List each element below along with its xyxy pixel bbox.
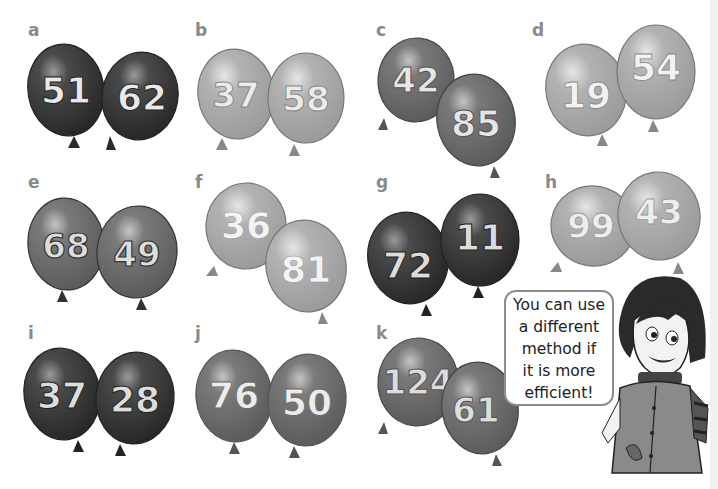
balloon-a-2: 62: [100, 50, 180, 160]
balloon-number: 61: [452, 390, 499, 430]
balloon-number: 37: [37, 375, 87, 416]
balloon-number: 11: [455, 217, 505, 258]
balloon-number: 68: [42, 226, 89, 266]
balloon-number: 76: [209, 375, 259, 416]
balloon-number: 72: [383, 245, 433, 286]
page-edge: [710, 0, 718, 489]
balloon-number: 85: [451, 103, 501, 144]
speech-line-4: it is more: [506, 360, 612, 382]
balloon-j-1: 76: [194, 348, 274, 464]
balloon-number: 42: [392, 60, 439, 100]
balloon-a-1: 51: [26, 42, 106, 158]
balloon-number: 62: [117, 77, 167, 118]
balloon-c-2: 85: [434, 70, 518, 184]
balloon-number: 49: [113, 234, 160, 274]
balloon-number: 58: [282, 79, 329, 119]
problem-label-e: e: [28, 172, 40, 192]
problem-label-j: j: [195, 323, 201, 343]
speech-line-2: a different: [506, 316, 612, 338]
problem-label-a: a: [28, 20, 39, 40]
balloon-b-2: 58: [266, 50, 346, 164]
balloon-g-1: 72: [366, 208, 450, 324]
speech-bubble: You can use a different method if it is …: [504, 290, 614, 406]
balloon-f-2: 81: [264, 216, 348, 332]
balloon-number: 37: [212, 75, 259, 115]
balloon-number: 50: [282, 382, 332, 423]
balloon-i-1: 37: [22, 346, 102, 462]
speech-line-5: efficient!: [506, 382, 612, 404]
balloon-number: 19: [561, 75, 611, 116]
balloon-i-2: 28: [94, 350, 176, 466]
speech-line-3: method if: [506, 338, 612, 360]
balloon-number: 81: [281, 249, 331, 290]
problem-label-i: i: [28, 323, 34, 343]
balloon-d-2: 54: [615, 22, 697, 144]
balloon-number: 99: [567, 206, 614, 246]
problem-label-d: d: [532, 20, 544, 40]
balloon-h-2: 43: [616, 170, 702, 284]
balloon-number: 54: [631, 47, 681, 88]
balloon-number: 51: [41, 70, 91, 111]
problem-label-b: b: [195, 20, 207, 40]
problem-label-f: f: [195, 172, 202, 192]
problem-label-g: g: [376, 172, 388, 192]
balloon-number: 28: [110, 379, 160, 420]
balloon-number: 43: [635, 192, 682, 232]
balloon-j-2: 50: [266, 352, 348, 468]
balloon-e-2: 49: [96, 204, 178, 320]
speech-line-1: You can use: [506, 294, 612, 316]
balloon-b-1: 37: [196, 46, 276, 160]
